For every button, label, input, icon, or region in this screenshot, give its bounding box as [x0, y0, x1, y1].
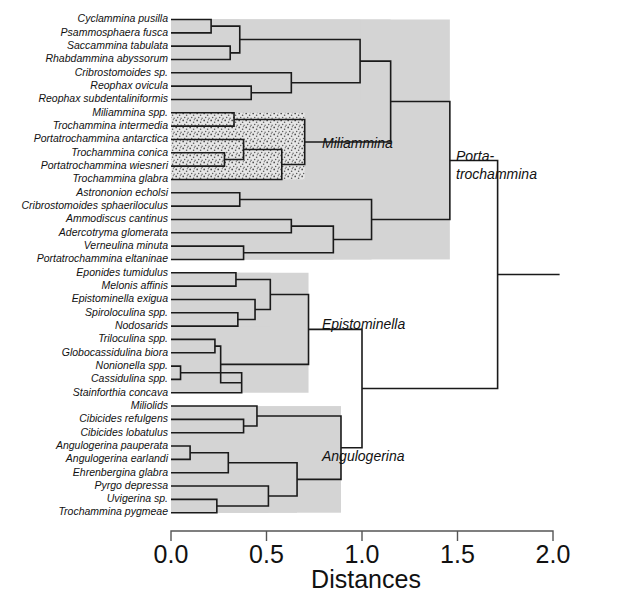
leaf-label: Trochammina glabra — [72, 172, 168, 184]
leaf-label: Cribrostomoides sp. — [75, 66, 168, 78]
cluster-shade-rect — [171, 153, 224, 166]
cluster-shade-rect — [171, 113, 234, 126]
cluster-shade-rect — [171, 20, 211, 33]
leaf-label: Psammosphaera fusca — [61, 26, 169, 38]
cluster-shade-m27 — [171, 273, 309, 393]
leaf-label: Verneulina minuta — [84, 239, 168, 251]
leaf-label: Cibicides lobatulus — [80, 426, 168, 438]
leaf-label: Cyclammina pusilla — [78, 12, 169, 24]
axis-tick-label: 2.0 — [536, 540, 571, 568]
group-label-epistominella: Epistominella — [322, 316, 405, 332]
leaf-label: Cassidulina spp. — [91, 372, 168, 384]
cluster-shade-rect — [171, 46, 230, 59]
leaf-label: Saccammina tabulata — [67, 39, 168, 51]
axis-tick-label: 1.0 — [345, 540, 380, 568]
cluster-shade-rect — [171, 339, 215, 352]
dendrogram-figure: Cyclammina pusillaPsammosphaera fuscaSac… — [0, 0, 628, 613]
leaf-label: Pyrgo depressa — [94, 479, 168, 491]
cluster-shade-m35 — [171, 406, 341, 513]
leaf-label: Melonis affinis — [101, 279, 168, 291]
leaf-label: Epistominella exigua — [72, 292, 168, 304]
leaf-label: Reophax subdentaliniformis — [38, 92, 168, 104]
leaf-label: Trochammina intermedia — [53, 119, 169, 131]
cluster-shade-rect — [171, 246, 244, 259]
axis-tick-label: 1.5 — [440, 540, 475, 568]
leaf-label: Nodosarids — [115, 319, 169, 331]
leaf-label: Astrononion echolsi — [75, 186, 168, 198]
group-label-miliammina: Miliammina — [322, 135, 393, 151]
group-label-portatrochammina-line1: Porta- — [456, 148, 494, 164]
cluster-shade-rect — [171, 366, 181, 379]
cluster-shade-rect — [171, 313, 238, 326]
leaf-label: Globocassidulina biora — [62, 346, 168, 358]
leaf-label: Rhabdammina abyssorum — [45, 52, 168, 64]
leaf-label: Cibicides refulgens — [79, 412, 168, 424]
cluster-shade-rect — [171, 193, 240, 206]
cluster-shade-rect — [171, 446, 190, 459]
leaf-label: Portatrochammina antarctica — [34, 132, 168, 144]
leaf-label: Ammodiscus cantinus — [65, 212, 169, 224]
cluster-shade-rect — [171, 273, 236, 286]
leaf-label: Spiroloculina spp. — [85, 306, 168, 318]
group-label-portatrochammina-line2: trochammina — [456, 166, 537, 182]
leaf-label: Adercotryma glomerata — [58, 226, 168, 238]
leaf-label: Triloculina spp. — [98, 332, 168, 344]
axis-tick-label: 0.5 — [249, 540, 284, 568]
cluster-shade-rect — [171, 499, 217, 512]
leaf-label: Ehrenbergina glabra — [73, 466, 168, 478]
leaf-label: Angulogerina pauperata — [55, 439, 168, 451]
axis-tick-label: 0.0 — [154, 540, 189, 568]
leaf-label: Cribrostomoides sphaeriloculus — [22, 199, 169, 211]
cluster-shade-rect — [171, 366, 242, 393]
group-label-angulogerina: Angulogerina — [321, 448, 405, 464]
leaf-label: Trochammina pygmeae — [58, 505, 168, 517]
axis-title: Distances — [311, 565, 421, 593]
leaf-label: Portatrochammina wiesneri — [41, 159, 169, 171]
cluster-shade-rect — [171, 219, 291, 232]
leaf-label: Eponides tumidulus — [76, 266, 168, 278]
cluster-shade-m11 — [171, 113, 305, 180]
leaf-label: Portatrochammina eltaninae — [37, 252, 168, 264]
leaf-label: Nonionella spp. — [96, 359, 168, 371]
cluster-shade-rect — [171, 86, 251, 99]
leaf-label: Reophax ovicula — [90, 79, 168, 91]
leaf-label: Miliammina spp. — [92, 106, 168, 118]
leaf-label: Trochammina conica — [71, 146, 168, 158]
leaf-label: Angulogerina earlandi — [65, 452, 169, 464]
cluster-shade-rect — [171, 419, 244, 432]
leaf-label: Stainforthia concava — [73, 386, 168, 398]
leaf-label: Uvigerina sp. — [107, 492, 168, 504]
leaf-label: Miliolids — [131, 399, 169, 411]
